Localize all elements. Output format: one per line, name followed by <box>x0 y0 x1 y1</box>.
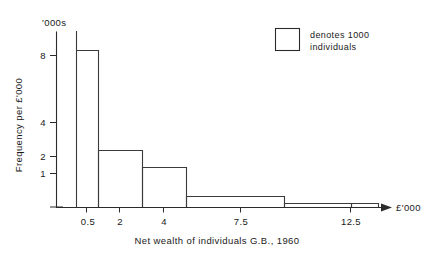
chart-canvas: 8 4 2 1 '000s Frequency per £'000 0.5 2 … <box>0 0 434 260</box>
x-tick-label-0point5: 0.5 <box>81 216 95 227</box>
figure-caption: Net wealth of individuals G.B., 1960 <box>135 235 300 246</box>
x-tick-label-7point5: 7.5 <box>234 216 248 227</box>
y-tick-label-2: 2 <box>40 151 46 162</box>
histogram-bars <box>77 31 379 207</box>
histogram-figure: 8 4 2 1 '000s Frequency per £'000 0.5 2 … <box>0 0 434 260</box>
y-axis-title: Frequency per £'000 <box>13 78 24 172</box>
legend-label-line-1: denotes 1000 <box>310 30 369 40</box>
y-tick-label-1: 1 <box>40 168 46 179</box>
bar-bin-0-0.5 <box>77 51 99 208</box>
x-axis-title: £'000 <box>396 202 421 213</box>
y-tick-label-8: 8 <box>40 50 46 61</box>
x-tick-label-4: 4 <box>161 216 167 227</box>
y-tick-label-4: 4 <box>40 117 46 128</box>
bar-bin-0.5-2 <box>99 151 143 208</box>
legend-swatch-open-square-icon <box>276 29 300 51</box>
bar-bin-2-4 <box>143 168 187 208</box>
legend-label-line-2: individuals <box>310 42 357 52</box>
x-axis-group: 0.5 2 4 7.5 12.5 £'000 <box>57 202 421 227</box>
legend: denotes 1000 individuals <box>276 29 370 53</box>
x-tick-label-2: 2 <box>117 216 123 227</box>
x-axis-arrow-icon <box>381 204 392 212</box>
y-axis-unit-label: '000s <box>42 17 66 28</box>
bar-bin-7.5-12.5 <box>285 204 352 208</box>
x-tick-label-12point5: 12.5 <box>341 216 361 227</box>
bar-bin-4-7.5 <box>187 197 285 208</box>
y-axis-group: 8 4 2 1 '000s Frequency per £'000 <box>13 17 66 207</box>
bar-bin-12.5-17 <box>352 204 379 208</box>
